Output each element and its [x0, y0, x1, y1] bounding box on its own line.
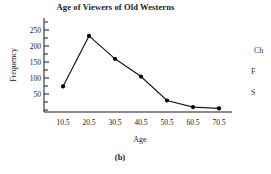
- y-tick-label-100: 100: [30, 74, 42, 83]
- data-point: [165, 98, 169, 102]
- y-axis-title: Frequency: [9, 48, 18, 82]
- figure-container: Age of Viewers of Old Westerns: [0, 0, 271, 174]
- data-point: [113, 57, 117, 61]
- y-tick-label-50: 50: [34, 90, 42, 99]
- x-tick-label-6: 60.5: [186, 118, 199, 127]
- data-point-markers: [61, 34, 221, 111]
- x-tick-label-7: 70.5: [212, 118, 225, 127]
- side-text-line-1: Ch: [248, 40, 271, 61]
- x-tick-label-5: 50.5: [160, 118, 173, 127]
- y-axis-ticks: [44, 22, 49, 110]
- x-axis-title: Age: [133, 135, 147, 144]
- chart-plot-area: 250 200 150 100 50 Frequency 10.5 20.5 3…: [0, 0, 240, 150]
- data-point: [217, 106, 221, 110]
- y-tick-label-250: 250: [30, 26, 42, 35]
- data-point: [191, 105, 195, 109]
- y-tick-label-200: 200: [30, 42, 42, 51]
- side-text-line-3: S: [248, 82, 271, 103]
- x-tick-label-1: 10.5: [56, 118, 69, 127]
- data-point: [61, 84, 65, 88]
- data-point: [139, 74, 143, 78]
- y-tick-label-150: 150: [30, 58, 42, 67]
- data-point: [87, 34, 91, 38]
- data-series-line: [63, 36, 219, 108]
- side-text-line-2: F: [248, 61, 271, 82]
- side-text-column: Ch F S: [248, 40, 271, 103]
- x-tick-label-2: 20.5: [82, 118, 95, 127]
- line-chart-svg: 250 200 150 100 50 Frequency 10.5 20.5 3…: [0, 0, 240, 150]
- x-tick-label-3: 30.5: [108, 118, 121, 127]
- figure-caption: (b): [0, 152, 240, 162]
- x-tick-label-4: 40.5: [134, 118, 147, 127]
